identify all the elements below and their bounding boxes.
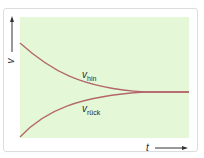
curve-v-rueck bbox=[20, 92, 189, 137]
label-v-hin: vhin bbox=[82, 70, 96, 82]
x-axis-arrow-icon bbox=[155, 146, 188, 150]
y-axis-label: v bbox=[6, 59, 16, 64]
label-v-rueck: vrück bbox=[82, 104, 100, 116]
y-axis-arrow-icon bbox=[10, 16, 14, 52]
curve-v-hin bbox=[20, 43, 189, 92]
x-axis-label: t bbox=[146, 143, 149, 153]
diagram-svg bbox=[0, 0, 204, 158]
